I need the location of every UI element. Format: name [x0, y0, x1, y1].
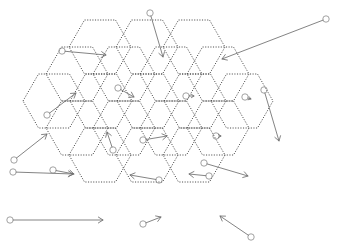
vector-arrow[interactable] [11, 134, 47, 163]
arrow-tail-circle-icon [59, 48, 65, 54]
arrow-tail-circle-icon [44, 112, 50, 118]
arrow-shaft [65, 51, 106, 55]
arrow-tail-circle-icon [206, 173, 212, 179]
vector-arrow[interactable] [140, 216, 161, 227]
vector-arrow[interactable] [50, 167, 74, 176]
arrow-tail-circle-icon [242, 94, 248, 100]
figure-canvas-container [0, 0, 337, 250]
vector-arrow[interactable] [189, 172, 212, 180]
arrow-tail-circle-icon [261, 87, 267, 93]
vector-arrow[interactable] [261, 87, 281, 141]
arrow-tail-circle-icon [7, 217, 13, 223]
vector-arrow[interactable] [10, 169, 73, 177]
arrow-shaft [189, 174, 206, 176]
arrow-tail-circle-icon [323, 16, 329, 22]
vector-arrow[interactable] [201, 160, 248, 178]
arrow-tail-circle-icon [140, 221, 146, 227]
arrow-shaft [17, 134, 47, 158]
vector-arrow[interactable] [213, 133, 221, 139]
arrow-tail-circle-icon [10, 169, 16, 175]
arrow-tail-circle-icon [115, 85, 121, 91]
vector-arrow[interactable] [222, 16, 329, 60]
hex-cell[interactable] [211, 74, 273, 128]
vector-arrow[interactable] [115, 85, 134, 97]
vector-arrow-layer [7, 10, 329, 240]
vector-arrow[interactable] [44, 93, 76, 118]
arrow-tail-circle-icon [140, 137, 146, 143]
vector-arrow[interactable] [106, 132, 117, 153]
hexagon-grid-layer [23, 20, 273, 182]
arrow-shaft [151, 16, 163, 57]
vector-arrow[interactable] [147, 10, 165, 57]
arrow-tail-circle-icon [201, 160, 207, 166]
arrow-tail-circle-icon [248, 234, 254, 240]
arrow-shaft [265, 93, 279, 141]
arrow-tail-circle-icon [183, 93, 189, 99]
vector-arrow[interactable] [140, 134, 167, 143]
vector-arrow[interactable] [59, 48, 106, 58]
vector-arrow[interactable] [7, 217, 103, 223]
arrow-tail-circle-icon [147, 10, 153, 16]
vector-arrow[interactable] [242, 94, 251, 100]
hex-grid-vector-figure [0, 0, 337, 250]
arrow-shaft [50, 93, 76, 113]
vector-arrow[interactable] [183, 93, 194, 99]
arrow-tail-circle-icon [50, 167, 56, 173]
arrow-shaft [207, 164, 248, 176]
arrow-tail-circle-icon [110, 147, 116, 153]
arrow-shaft [222, 20, 323, 59]
vector-arrow[interactable] [220, 216, 254, 240]
arrow-shaft [220, 216, 248, 235]
